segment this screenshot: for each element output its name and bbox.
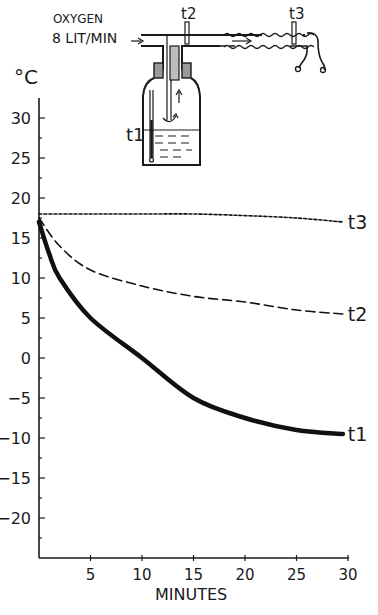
- y-tick-label: 15: [11, 229, 31, 248]
- label-t2-diagram: t2: [181, 5, 196, 23]
- y-tick-label: 30: [11, 109, 31, 128]
- chart: °C 302520151050−5−10−15−20 51015202530 M…: [0, 65, 367, 604]
- y-axis-unit-label: °C: [14, 65, 38, 89]
- thermometer-t2-icon: [185, 22, 189, 44]
- y-tick-label: −10: [0, 429, 31, 448]
- apparatus-diagram: OXYGEN 8 LIT/MIN t2 t3: [52, 5, 370, 165]
- x-tick-label: 30: [338, 566, 357, 584]
- series-label-t3: t3: [348, 211, 368, 233]
- y-tick-label: 20: [11, 189, 31, 208]
- flow-rate-label: 8 LIT/MIN: [52, 30, 117, 46]
- y-tick-label: 25: [11, 149, 31, 168]
- y-tick-label: 5: [21, 309, 31, 328]
- thermometer-t1-icon: [150, 158, 154, 162]
- figure: OXYGEN 8 LIT/MIN t2 t3: [0, 0, 378, 615]
- y-tick-label: −5: [7, 389, 31, 408]
- thermometer-t3-icon: [292, 22, 296, 44]
- series-label-t2: t2: [348, 303, 368, 325]
- x-ticks: 51015202530: [86, 555, 358, 584]
- x-axis-label: MINUTES: [155, 585, 227, 604]
- y-tick-label: 0: [21, 349, 31, 368]
- series-t1-line: [39, 222, 343, 434]
- inlet-arrow-icon: [131, 38, 143, 44]
- oxygen-label: OXYGEN: [53, 12, 103, 26]
- flow-arrow-icon: [232, 38, 251, 44]
- x-tick-label: 25: [287, 566, 306, 584]
- x-tick-label: 5: [86, 566, 96, 584]
- y-tick-label: −15: [0, 469, 31, 488]
- y-tick-label: −20: [0, 509, 31, 528]
- series-lines: [39, 214, 343, 434]
- series-t3-line: [39, 214, 343, 222]
- x-tick-label: 10: [132, 566, 151, 584]
- label-t1-diagram: t1: [126, 124, 145, 145]
- label-t3-diagram: t3: [289, 5, 304, 23]
- y-tick-label: 10: [11, 269, 31, 288]
- x-tick-label: 20: [235, 566, 254, 584]
- series-t2-line: [39, 218, 343, 314]
- series-label-t1: t1: [348, 423, 368, 445]
- series-labels: t3t2t1: [348, 211, 368, 445]
- x-tick-label: 15: [184, 566, 203, 584]
